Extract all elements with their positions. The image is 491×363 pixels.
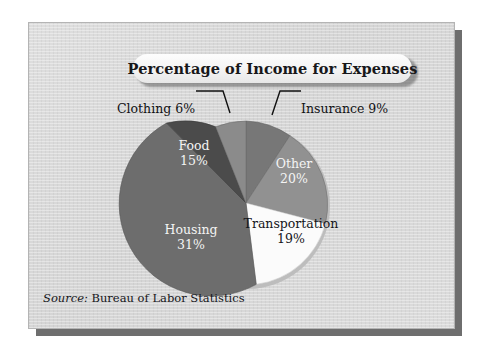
pie-label-other: Other 20%	[257, 157, 331, 186]
pie-label-housing-value: 31%	[149, 238, 233, 253]
pie-label-food: Food 15%	[157, 139, 231, 168]
source-note-text: Bureau of Labor Statistics	[88, 291, 245, 305]
pie-label-other-name: Other	[257, 157, 331, 172]
leader-line-insurance	[272, 91, 301, 115]
pie-label-transportation-value: 19%	[223, 232, 359, 247]
figure-panel: Clothing 6% Insurance 9% Food 15% Housin…	[28, 22, 455, 329]
pie-label-food-value: 15%	[157, 154, 231, 169]
screenshot-canvas: Clothing 6% Insurance 9% Food 15% Housin…	[0, 0, 491, 363]
figure-title-banner: Percentage of Income for Expenses	[133, 54, 418, 87]
pie-label-housing: Housing 31%	[149, 223, 233, 252]
figure-title-pill: Percentage of Income for Expenses	[133, 54, 412, 83]
pie-label-clothing: Clothing 6%	[117, 101, 195, 116]
pie-label-insurance: Insurance 9%	[301, 101, 388, 116]
source-note-keyword: Source:	[43, 291, 88, 305]
pie-label-food-name: Food	[157, 139, 231, 154]
pie-label-housing-name: Housing	[149, 223, 233, 238]
page-title: Percentage of Income for Expenses	[128, 60, 418, 77]
pie-label-transportation-name: Transportation	[223, 217, 359, 232]
source-note: Source: Bureau of Labor Statistics	[43, 291, 245, 305]
pie-label-transportation: Transportation 19%	[223, 217, 359, 246]
pie-label-other-value: 20%	[257, 172, 331, 187]
leader-line-clothing	[196, 91, 230, 113]
